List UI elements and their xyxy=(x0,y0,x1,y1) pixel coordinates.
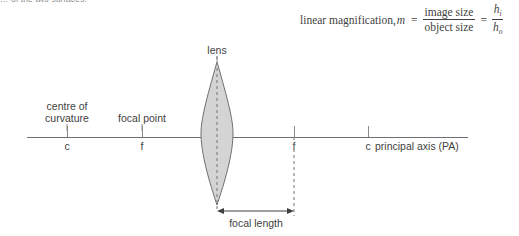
focal-length-arrow-head-left xyxy=(217,208,224,214)
focal-length-arrow-head-right xyxy=(287,208,294,214)
diagram-vector-layer xyxy=(0,0,519,236)
converging-lens-diagram: c f f c centre of curvature focal point … xyxy=(0,0,519,236)
